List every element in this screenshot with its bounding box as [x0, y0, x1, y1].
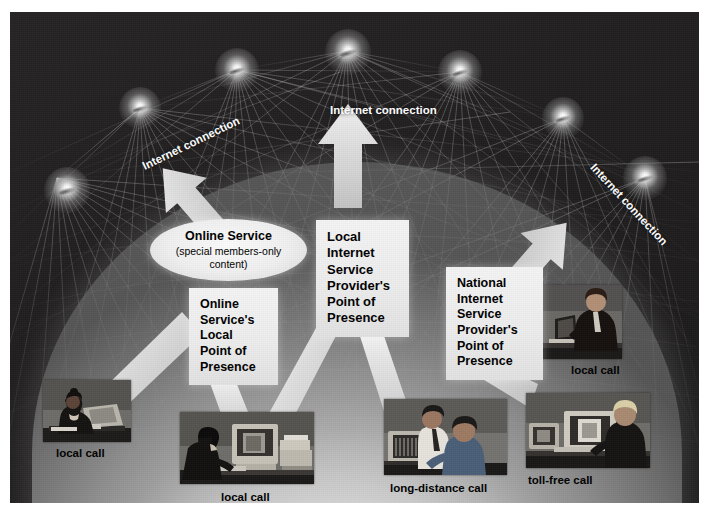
box-line: Local	[200, 328, 268, 344]
box-online-service-local-pop: Online Service's Local Point of Presence	[189, 288, 278, 385]
label-line-2: connection	[375, 104, 436, 116]
label-internet-connection-top: Internet connection	[330, 104, 437, 118]
box-line: Service	[327, 262, 399, 278]
screenshot-root: local call	[0, 0, 707, 510]
photo-woman-desktop	[180, 412, 314, 484]
box-line: Internet	[327, 245, 399, 261]
photo-man-laptop	[541, 285, 622, 359]
label-line-1: Internet	[330, 104, 372, 116]
box-line: Presence	[457, 354, 533, 370]
box-line: Internet	[457, 292, 533, 308]
box-line: Presence	[200, 360, 268, 376]
callout-online-service: Online Service (special members-only con…	[150, 219, 307, 281]
box-line: Point of	[327, 294, 399, 310]
caption-local-call-2: local call	[221, 491, 270, 503]
callout-subtitle-line-2: content)	[210, 258, 248, 270]
box-line: Service's	[200, 313, 268, 329]
box-national-isp-pop: National Internet Service Provider's Poi…	[446, 267, 543, 380]
box-line: Provider's	[457, 323, 533, 339]
box-line: National	[457, 276, 533, 292]
photo-woman-terminal-image	[43, 380, 131, 442]
arrow-up-center	[318, 104, 378, 208]
photo-two-men-image	[384, 399, 507, 475]
box-line: Service	[457, 307, 533, 323]
box-local-isp-pop: Local Internet Service Provider's Point …	[316, 220, 409, 337]
box-line: Online	[200, 297, 268, 313]
photo-woman-terminal	[43, 380, 131, 442]
photo-man-desktop	[526, 393, 650, 468]
box-line: Point of	[457, 339, 533, 355]
photo-two-men	[384, 399, 507, 475]
box-line: Local	[327, 229, 399, 245]
photo-man-desktop-image	[526, 393, 650, 468]
caption-local-call-3: local call	[571, 364, 620, 376]
caption-toll-free-call: toll-free call	[528, 474, 593, 486]
box-line: Point of	[200, 344, 268, 360]
box-line: Provider's	[327, 278, 399, 294]
photo-woman-desktop-image	[180, 412, 314, 484]
callout-title: Online Service	[185, 230, 272, 244]
caption-long-distance-call: long-distance call	[390, 482, 487, 494]
diagram-artwork: local call	[10, 12, 699, 503]
photo-man-laptop-image	[541, 285, 622, 359]
caption-local-call-1: local call	[56, 447, 105, 459]
box-line: Presence	[327, 310, 399, 326]
callout-subtitle-line-1: (special members-only	[176, 245, 282, 257]
